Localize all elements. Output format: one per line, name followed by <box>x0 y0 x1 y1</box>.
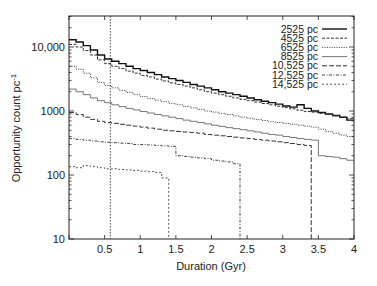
y-tick-label: 10 <box>53 233 65 245</box>
x-tick-label: 3 <box>280 243 286 255</box>
x-tick-label: 1 <box>137 243 143 255</box>
x-tick-labels: 0.511.522.533.54 <box>97 243 357 255</box>
x-tick-label: 2 <box>208 243 214 255</box>
x-axis-title: Duration (Gyr) <box>176 260 246 272</box>
series-line-6 <box>69 166 169 239</box>
x-tick-label: 2.5 <box>239 243 254 255</box>
y-tick-label: 10,000 <box>31 41 65 53</box>
y-tick-labels: 10100100010,000 <box>31 41 65 245</box>
y-tick-label: 100 <box>47 169 65 181</box>
y-tick-label: 1000 <box>41 105 65 117</box>
chart: 0.511.522.533.54 10100100010,000 Duratio… <box>0 0 377 286</box>
x-tick-label: 1.5 <box>168 243 183 255</box>
series-line-4 <box>69 112 311 239</box>
legend-label: 14,525 pc <box>272 78 318 90</box>
x-tick-label: 4 <box>351 243 357 255</box>
legend: 2525 pc4525 pc6525 pc8525 pc10,525 pc12,… <box>272 23 347 90</box>
x-tick-label: 3.5 <box>311 243 326 255</box>
series-line-5 <box>69 139 240 239</box>
x-tick-label: 0.5 <box>97 243 112 255</box>
y-axis-title: Opportunity count pc-1 <box>9 73 22 182</box>
series-line-3 <box>69 89 354 160</box>
